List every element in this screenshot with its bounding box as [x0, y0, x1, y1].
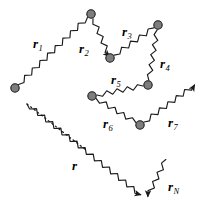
node-r3-r4 [154, 21, 162, 29]
segment-r3 [114, 28, 154, 55]
label-r-resultant: r [72, 159, 77, 172]
segment-r2 [93, 19, 109, 57]
label-r5: r5 [111, 73, 120, 86]
node-r6-r7 [136, 121, 144, 129]
segment-r4 [147, 30, 157, 80]
dashed-guide-line [27, 104, 86, 150]
label-r4: r4 [160, 57, 169, 70]
segment-r1 [19, 17, 88, 84]
label-r7: r7 [168, 116, 177, 129]
node-start-left [11, 84, 19, 92]
label-r6: r6 [103, 117, 112, 130]
node-r2-r3 [106, 54, 114, 62]
node-r4-r5 [144, 81, 152, 89]
segment-rN [148, 159, 166, 196]
label-r2: r2 [79, 42, 88, 55]
random-walk-chain-figure: r1 r2 r3 r4 r5 r6 r7 r rN [0, 0, 205, 212]
node-r5-r6 [88, 92, 96, 100]
dashed-connector [27, 104, 86, 150]
segment-r-resultant [27, 104, 140, 195]
node-top [87, 10, 95, 18]
label-r1: r1 [33, 37, 42, 50]
label-rN: rN [168, 180, 179, 193]
label-r3: r3 [122, 25, 131, 38]
